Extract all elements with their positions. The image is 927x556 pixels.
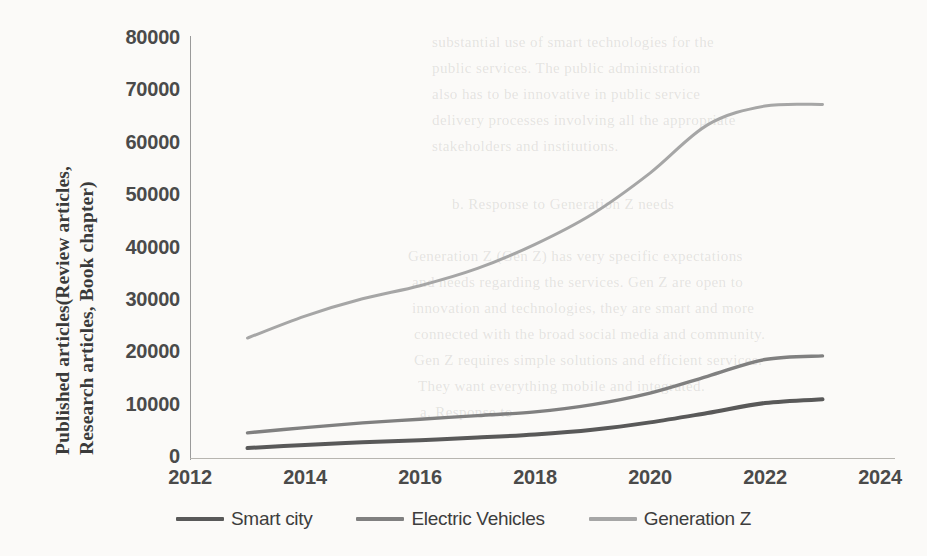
legend-item[interactable]: Generation Z — [589, 508, 751, 530]
y-tick-label: 40000 — [80, 236, 180, 259]
chart-legend: Smart cityElectric VehiclesGeneration Z — [176, 504, 751, 534]
legend-swatch-icon — [176, 517, 224, 521]
legend-label: Smart city — [231, 508, 312, 530]
legend-label: Electric Vehicles — [411, 508, 544, 530]
y-tick-label: 0 — [80, 445, 180, 468]
y-tick-label: 20000 — [80, 340, 180, 363]
y-tick-label: 30000 — [80, 288, 180, 311]
x-axis-line — [190, 458, 895, 459]
x-tick-label: 2014 — [260, 466, 350, 489]
y-tick-label: 50000 — [80, 183, 180, 206]
legend-swatch-icon — [356, 517, 404, 521]
y-tick-label: 60000 — [80, 131, 180, 154]
x-tick-label: 2016 — [375, 466, 465, 489]
series-line — [248, 356, 823, 433]
x-tick-label: 2020 — [605, 466, 695, 489]
series-line — [248, 104, 823, 338]
y-tick-label: 80000 — [80, 26, 180, 49]
y-tick-label: 70000 — [80, 78, 180, 101]
legend-item[interactable]: Smart city — [176, 508, 312, 530]
legend-label: Generation Z — [644, 508, 751, 530]
x-axis-tick-labels: 2012201420162018202020222024 — [0, 466, 927, 496]
y-axis-tick-labels: 0100002000030000400005000060000700008000… — [72, 0, 180, 500]
y-axis-title-line-1: Published articles(Review articles, — [52, 166, 74, 455]
x-tick-label: 2018 — [490, 466, 580, 489]
chart-page: substantial use of smart technologies fo… — [0, 0, 927, 556]
x-tick-label: 2012 — [145, 466, 235, 489]
series-svg — [190, 39, 880, 458]
legend-item[interactable]: Electric Vehicles — [356, 508, 544, 530]
x-tick-label: 2022 — [720, 466, 810, 489]
y-tick-label: 10000 — [80, 393, 180, 416]
plot-area — [190, 39, 880, 458]
x-tick-label: 2024 — [835, 466, 925, 489]
legend-swatch-icon — [589, 517, 637, 521]
